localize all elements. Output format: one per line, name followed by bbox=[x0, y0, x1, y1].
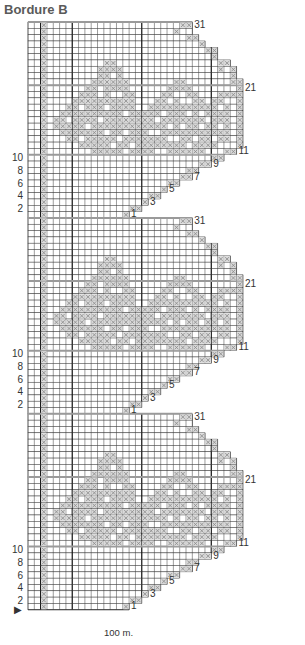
svg-text:7: 7 bbox=[194, 366, 200, 377]
svg-text:4: 4 bbox=[17, 582, 23, 593]
svg-text:10: 10 bbox=[12, 544, 24, 555]
svg-text:2: 2 bbox=[17, 399, 23, 410]
svg-text:11: 11 bbox=[239, 145, 250, 156]
svg-text:8: 8 bbox=[17, 165, 23, 176]
svg-text:8: 8 bbox=[17, 361, 23, 372]
svg-text:3: 3 bbox=[150, 196, 156, 207]
stitch-count-caption: 100 m. bbox=[104, 627, 133, 638]
svg-text:4: 4 bbox=[17, 190, 23, 201]
svg-text:6: 6 bbox=[17, 178, 23, 189]
svg-text:7: 7 bbox=[194, 562, 200, 573]
svg-text:3: 3 bbox=[150, 588, 156, 599]
svg-text:6: 6 bbox=[17, 374, 23, 385]
svg-text:7: 7 bbox=[194, 171, 200, 182]
svg-text:31: 31 bbox=[194, 19, 206, 30]
svg-text:6: 6 bbox=[17, 570, 23, 581]
svg-text:4: 4 bbox=[17, 386, 23, 397]
svg-text:9: 9 bbox=[213, 158, 219, 169]
svg-text:1: 1 bbox=[131, 600, 137, 611]
svg-text:9: 9 bbox=[213, 550, 219, 561]
svg-text:11: 11 bbox=[239, 341, 250, 352]
svg-text:31: 31 bbox=[194, 411, 206, 422]
filet-chart: 2468102468102468101357911213113579112131… bbox=[0, 0, 305, 645]
svg-text:8: 8 bbox=[17, 557, 23, 568]
svg-text:10: 10 bbox=[12, 348, 24, 359]
svg-text:21: 21 bbox=[245, 278, 257, 289]
svg-text:5: 5 bbox=[169, 575, 175, 586]
svg-text:11: 11 bbox=[239, 537, 250, 548]
svg-text:3: 3 bbox=[150, 392, 156, 403]
svg-text:2: 2 bbox=[17, 203, 23, 214]
svg-text:1: 1 bbox=[131, 404, 137, 415]
svg-text:1: 1 bbox=[131, 208, 137, 219]
svg-text:5: 5 bbox=[169, 183, 175, 194]
svg-text:10: 10 bbox=[12, 152, 24, 163]
svg-text:9: 9 bbox=[213, 354, 219, 365]
svg-text:5: 5 bbox=[169, 379, 175, 390]
svg-text:21: 21 bbox=[245, 82, 257, 93]
svg-text:▶: ▶ bbox=[14, 604, 22, 615]
svg-text:21: 21 bbox=[245, 474, 257, 485]
svg-text:31: 31 bbox=[194, 215, 206, 226]
